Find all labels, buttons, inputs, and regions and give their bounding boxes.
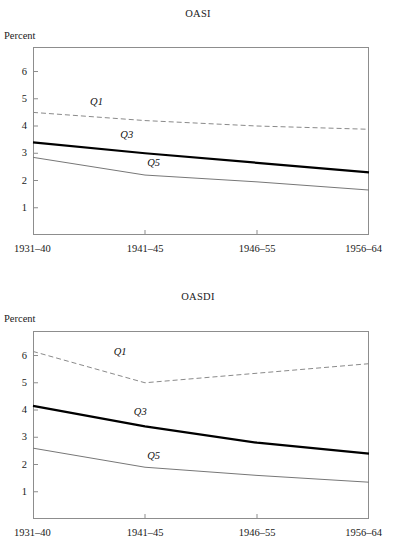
plot-svg-oasdi [0, 278, 396, 556]
series-label-q3: Q3 [120, 130, 133, 141]
series-label-q5: Q5 [147, 451, 160, 462]
y-tick-label: 6 [5, 351, 27, 362]
y-tick-label: 2 [5, 460, 27, 471]
y-tick-label: 5 [5, 378, 27, 389]
data-series-line-q5 [33, 448, 369, 482]
y-tick-label: 5 [5, 94, 27, 105]
chart-panel-oasi: OASI Percent 123456 1931–401941–451946–5… [0, 0, 396, 278]
series-label-q1: Q1 [114, 347, 127, 358]
y-tick-label: 6 [5, 67, 27, 78]
x-tick-label: 1956–64 [334, 244, 396, 255]
y-tick-label: 2 [5, 176, 27, 187]
data-series-line-q1 [33, 112, 369, 129]
y-tick-label: 4 [5, 121, 27, 132]
y-tick-label: 3 [5, 432, 27, 443]
data-series-line-q5 [33, 157, 369, 190]
y-tick-label: 1 [5, 487, 27, 498]
series-label-q3: Q3 [134, 407, 147, 418]
data-series-line-q3 [33, 406, 369, 454]
y-tick-label: 1 [5, 203, 27, 214]
plot-svg-oasi [0, 0, 396, 278]
data-series-line-q1 [33, 351, 369, 382]
y-tick-label: 4 [5, 405, 27, 416]
series-label-q5: Q5 [147, 158, 160, 169]
data-series-line-q3 [33, 142, 369, 172]
x-tick-label: 1956–64 [334, 528, 396, 539]
chart-panel-oasdi: OASDI Percent 123456 1931–401941–451946–… [0, 278, 396, 556]
y-tick-label: 3 [5, 148, 27, 159]
series-label-q1: Q1 [90, 97, 103, 108]
